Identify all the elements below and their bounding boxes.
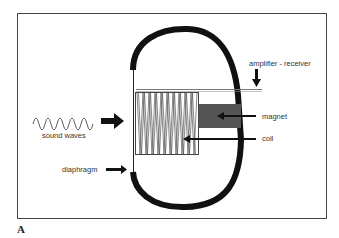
diaphragm-arrow-icon xyxy=(106,165,127,174)
amplifier-arrow-icon xyxy=(252,69,261,87)
microphone-diagram: sound waves diaphragm amplifier - receiv… xyxy=(0,0,339,238)
sound-wave-icon xyxy=(33,118,93,130)
label-magnet: magnet xyxy=(262,112,288,121)
sound-waves-arrow-icon xyxy=(101,113,124,129)
label-amplifier-receiver: amplifier - receiver xyxy=(249,59,311,68)
panel-label: A xyxy=(17,223,25,235)
label-coil: coil xyxy=(262,134,274,143)
label-diaphragm: diaphragm xyxy=(62,165,97,174)
label-sound-waves: sound waves xyxy=(42,131,86,140)
